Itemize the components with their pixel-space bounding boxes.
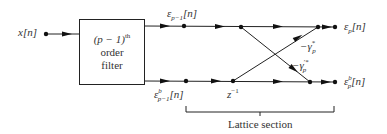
input-label: x[n] bbox=[18, 27, 37, 38]
arrow-icon bbox=[321, 80, 331, 85]
top-node-1 bbox=[182, 24, 186, 28]
input-node bbox=[44, 32, 48, 36]
coef-lower-base: −γ bbox=[292, 59, 304, 71]
lattice-section-label: Lattice section bbox=[228, 119, 292, 130]
out-top-suffix: [n] bbox=[352, 20, 366, 32]
top-signal-label: εp−1[n] bbox=[167, 8, 197, 19]
filter-block-label: (p − 1)th order filter bbox=[79, 19, 145, 85]
top-signal-sub: p−1 bbox=[171, 14, 183, 22]
coef-lower-sub: p bbox=[303, 66, 307, 74]
delay-sup: −1 bbox=[231, 87, 238, 95]
bottom-signal-sub: p−1 bbox=[158, 95, 170, 103]
bottom-path-line bbox=[145, 81, 335, 82]
output-top-label: εp[n] bbox=[344, 21, 366, 32]
bottom-signal-label: εbp−1[n] bbox=[154, 89, 184, 100]
out-bottom-suffix: [n] bbox=[351, 75, 365, 87]
top-sum-node bbox=[316, 25, 320, 29]
filter-order-sup: th bbox=[125, 32, 130, 40]
bottom-delay-node bbox=[231, 79, 235, 83]
arrow-icon bbox=[62, 32, 72, 37]
lattice-diagram-canvas bbox=[0, 0, 387, 134]
coef-lower-label: −γ′*p bbox=[292, 60, 306, 71]
input-label-text: x[n] bbox=[18, 26, 37, 38]
top-node-2 bbox=[239, 25, 243, 29]
coef-upper-base: −γ bbox=[300, 40, 312, 52]
arrow-icon bbox=[215, 24, 225, 29]
bottom-sum-node bbox=[308, 80, 312, 84]
arrow-icon bbox=[322, 25, 332, 30]
arrow-icon bbox=[211, 79, 221, 84]
arrow-icon bbox=[160, 24, 170, 29]
filter-line-2: order bbox=[100, 46, 123, 59]
bottom-signal-suffix: [n] bbox=[170, 88, 184, 100]
filter-order-text: (p − 1) bbox=[94, 33, 125, 45]
output-bottom-label: εbp[n] bbox=[344, 76, 365, 87]
coef-upper-sub: p bbox=[312, 47, 316, 55]
arrow-icon bbox=[160, 79, 170, 84]
delay-label: z−1 bbox=[227, 89, 239, 100]
filter-line-3: filter bbox=[101, 59, 122, 72]
bottom-node-1 bbox=[184, 79, 188, 83]
top-output-node bbox=[333, 25, 337, 29]
arrow-icon bbox=[273, 79, 283, 84]
filter-line-1: (p − 1)th bbox=[94, 33, 131, 46]
bottom-output-node bbox=[333, 80, 337, 84]
lattice-bracket bbox=[186, 106, 334, 112]
coef-upper-label: −γ*p bbox=[300, 41, 316, 52]
arrow-icon bbox=[273, 24, 283, 29]
top-signal-suffix: [n] bbox=[183, 7, 197, 19]
